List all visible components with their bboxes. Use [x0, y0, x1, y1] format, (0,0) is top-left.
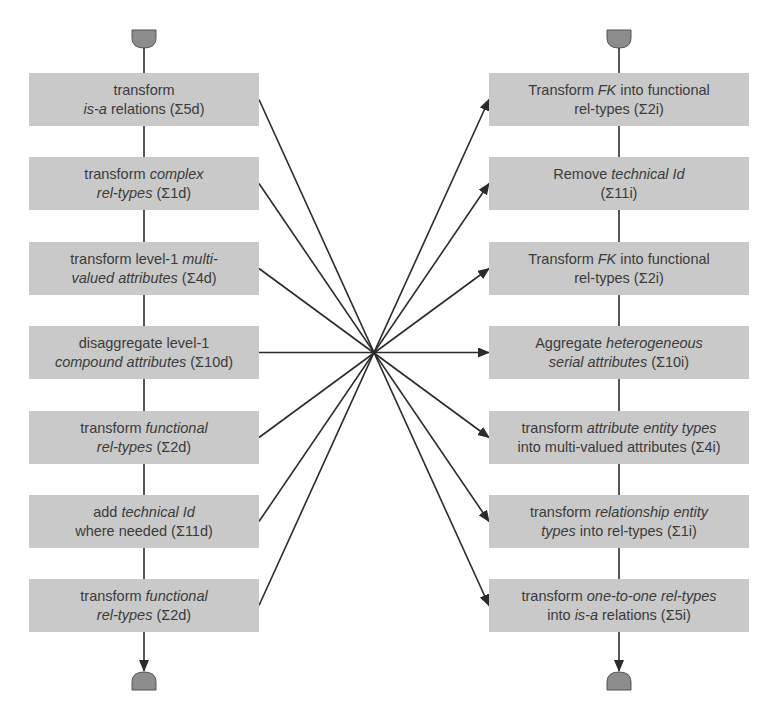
box-label-line: transform functional	[80, 419, 207, 438]
label-text: Remove	[553, 166, 611, 182]
italic-term: rel-types	[97, 439, 153, 455]
label-text: into multi-valued attributes (Σ4i)	[517, 439, 720, 455]
box-label-line: transform attribute entity types	[517, 419, 720, 438]
italic-term: compound attributes	[55, 354, 186, 370]
box-label-line: is-a relations (Σ5d)	[84, 100, 205, 119]
box-label-line: transform level-1 multi-	[70, 250, 217, 269]
box-label-line: types into rel-types (Σ1i)	[530, 522, 708, 541]
inverse-transformation-box: transform relationship entitytypes into …	[489, 495, 749, 548]
label-text: transform	[80, 420, 145, 436]
label-text: transform	[84, 166, 149, 182]
box-label-line: transform	[84, 81, 205, 100]
box-label: Remove technical Id(Σ11i)	[553, 165, 684, 203]
italic-term: rel-types	[97, 607, 153, 623]
inverse-transformation-box: Transform FK into functionalrel-types (Σ…	[489, 242, 749, 295]
italic-term: relationship entity	[595, 504, 708, 520]
box-label-line: transform functional	[80, 587, 207, 606]
label-text: disaggregate level-1	[79, 335, 210, 351]
box-label: transform functionalrel-types (Σ2d)	[80, 587, 207, 625]
box-label-line: (Σ11i)	[553, 184, 684, 203]
label-text: (Σ2d)	[152, 607, 191, 623]
inverse-transformation-box: Remove technical Id(Σ11i)	[489, 157, 749, 210]
box-label-line: into is-a relations (Σ5i)	[521, 606, 716, 625]
box-label-line: rel-types (Σ2i)	[528, 100, 710, 119]
label-text: (Σ4d)	[178, 270, 217, 286]
label-text: transform	[521, 588, 586, 604]
box-label-line: Transform FK into functional	[528, 81, 710, 100]
box-label-line: Aggregate heterogeneous	[535, 334, 703, 353]
label-text: (Σ1d)	[152, 185, 191, 201]
direct-transformation-box: transform complexrel-types (Σ1d)	[29, 157, 259, 210]
box-label: transform relationship entitytypes into …	[530, 503, 708, 541]
label-text: into functional	[616, 251, 710, 267]
box-label-line: rel-types (Σ2d)	[80, 606, 207, 625]
italic-term: valued attributes	[71, 270, 177, 286]
label-text: Transform	[528, 251, 598, 267]
inverse-transformation-box: transform attribute entity typesinto mul…	[489, 411, 749, 464]
box-label-line: rel-types (Σ1d)	[84, 184, 203, 203]
label-text: transform	[521, 420, 586, 436]
label-text: Transform	[528, 82, 598, 98]
end-terminator-icon	[132, 672, 156, 690]
label-text: add	[93, 504, 121, 520]
box-label: Transform FK into functionalrel-types (Σ…	[528, 81, 710, 119]
label-text: (Σ10i)	[647, 354, 689, 370]
direct-transformation-box: transform level-1 multi-valued attribute…	[29, 242, 259, 295]
label-text: transform	[80, 588, 145, 604]
italic-term: functional	[146, 588, 208, 604]
italic-term: technical Id	[121, 504, 194, 520]
direct-transformation-box: transform functionalrel-types (Σ2d)	[29, 579, 259, 632]
box-label: transform one-to-one rel-typesinto is-a …	[521, 587, 716, 625]
direct-transformation-box: add technical Idwhere needed (Σ11d)	[29, 495, 259, 548]
direct-transformation-box: disaggregate level-1compound attributes …	[29, 326, 259, 379]
box-label: transformis-a relations (Σ5d)	[84, 81, 205, 119]
label-text: (Σ10d)	[186, 354, 233, 370]
italic-term: attribute entity types	[587, 420, 717, 436]
italic-term: FK	[598, 251, 617, 267]
box-label: transform functionalrel-types (Σ2d)	[80, 419, 207, 457]
box-label-line: into multi-valued attributes (Σ4i)	[517, 438, 720, 457]
label-text: relations (Σ5i)	[598, 607, 691, 623]
label-text: (Σ2d)	[152, 439, 191, 455]
inverse-transformation-box: Aggregate heterogeneousserial attributes…	[489, 326, 749, 379]
italic-term: functional	[146, 420, 208, 436]
box-label: transform attribute entity typesinto mul…	[517, 419, 720, 457]
transformation-mapping-diagram: transformis-a relations (Σ5d)transform c…	[0, 0, 776, 721]
italic-term: heterogeneous	[606, 335, 703, 351]
box-label: Aggregate heterogeneousserial attributes…	[535, 334, 703, 372]
start-terminator-icon	[132, 30, 156, 48]
italic-term: one-to-one rel-types	[587, 588, 717, 604]
label-text: relations (Σ5d)	[107, 101, 205, 117]
box-label-line: compound attributes (Σ10d)	[55, 353, 233, 372]
box-label-line: Transform FK into functional	[528, 250, 710, 269]
inverse-transformation-box: Transform FK into functionalrel-types (Σ…	[489, 73, 749, 126]
box-label: transform complexrel-types (Σ1d)	[84, 165, 203, 203]
label-text: into rel-types (Σ1i)	[576, 523, 697, 539]
italic-term: is-a	[575, 607, 598, 623]
inverse-transformation-box: transform one-to-one rel-typesinto is-a …	[489, 579, 749, 632]
box-label: Transform FK into functionalrel-types (Σ…	[528, 250, 710, 288]
box-label-line: disaggregate level-1	[55, 334, 233, 353]
label-text: transform	[530, 504, 595, 520]
italic-term: rel-types	[97, 185, 153, 201]
italic-term: FK	[598, 82, 617, 98]
label-text: Aggregate	[535, 335, 606, 351]
label-text: where needed (Σ11d)	[75, 523, 213, 539]
label-text: transform level-1	[70, 251, 182, 267]
box-label-line: transform relationship entity	[530, 503, 708, 522]
italic-term: technical Id	[611, 166, 684, 182]
label-text: (Σ11i)	[601, 185, 638, 201]
box-label: transform level-1 multi-valued attribute…	[70, 250, 217, 288]
box-label-line: Remove technical Id	[553, 165, 684, 184]
direct-transformation-box: transform functionalrel-types (Σ2d)	[29, 411, 259, 464]
italic-term: complex	[150, 166, 204, 182]
box-label-line: rel-types (Σ2i)	[528, 269, 710, 288]
italic-term: serial attributes	[549, 354, 647, 370]
label-text: transform	[113, 82, 174, 98]
box-label: add technical Idwhere needed (Σ11d)	[75, 503, 213, 541]
box-label-line: transform complex	[84, 165, 203, 184]
end-terminator-icon	[607, 672, 631, 690]
start-terminator-icon	[607, 30, 631, 48]
italic-term: types	[541, 523, 576, 539]
label-text: into	[547, 607, 574, 623]
